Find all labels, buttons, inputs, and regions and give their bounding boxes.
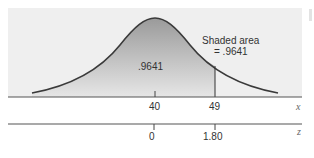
inside-area-label: .9641 — [138, 62, 163, 72]
callout-label-line1: Shaded area — [202, 36, 259, 46]
x-tick-label-40: 40 — [149, 102, 160, 112]
callout-label-line2: = .9641 — [214, 47, 248, 57]
z-tick-label-0: 0 — [149, 132, 155, 142]
x-axis-label: x — [296, 102, 300, 112]
x-tick-label-49: 49 — [209, 102, 220, 112]
normal-curve-chart — [0, 0, 314, 158]
z-tick-label-180: 1.80 — [203, 132, 222, 142]
z-axis-label: z — [297, 127, 301, 137]
